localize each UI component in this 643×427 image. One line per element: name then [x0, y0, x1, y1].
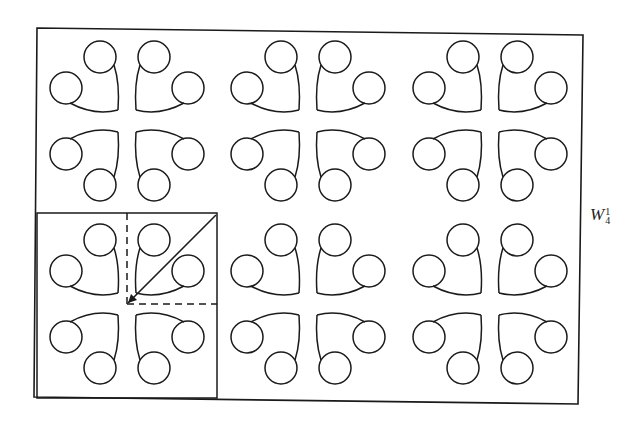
motif	[499, 41, 568, 112]
motif-circle	[319, 224, 351, 256]
motif-circle	[319, 41, 351, 73]
motif-circle	[84, 352, 116, 384]
motif-arc	[433, 313, 481, 322]
motif-circle	[265, 169, 297, 201]
motif-arc	[136, 315, 141, 360]
motif-circle	[353, 138, 385, 170]
motif-circle	[265, 224, 297, 256]
motif-circle	[447, 224, 479, 256]
lattice-cell	[413, 41, 567, 201]
motif-arc	[114, 132, 119, 177]
diagonal-line	[128, 215, 216, 303]
motif-circle	[50, 255, 82, 287]
motif	[413, 224, 482, 295]
motif	[50, 313, 119, 384]
motif-arc	[317, 313, 365, 322]
motif-arc	[499, 313, 547, 322]
motif-circle	[535, 255, 567, 287]
motif-circle	[447, 352, 479, 384]
motif-arc	[317, 132, 322, 177]
motif-circle	[231, 321, 263, 353]
motif-circle	[265, 352, 297, 384]
motif	[50, 130, 119, 201]
label-subscript: 4	[605, 216, 610, 225]
motif-arc	[499, 130, 547, 139]
motif-arc	[499, 132, 504, 177]
motif-circle	[172, 255, 204, 287]
motif-arc	[295, 248, 300, 293]
group-label: W14	[590, 205, 610, 225]
motif-arc	[295, 315, 300, 360]
motif-arc	[295, 65, 300, 110]
motif-circle	[535, 72, 567, 104]
label-scripts: 14	[605, 207, 610, 225]
motif	[50, 41, 119, 112]
motif-arc	[114, 65, 119, 110]
motif-arc	[136, 103, 184, 112]
motif	[413, 41, 482, 112]
motif-arc	[70, 313, 118, 322]
motif-circle	[535, 138, 567, 170]
motif-arc	[499, 248, 504, 293]
motif-arc	[251, 286, 299, 295]
motif-arc	[70, 286, 118, 295]
motif-circle	[447, 169, 479, 201]
motif	[499, 313, 568, 384]
label-base: W	[590, 205, 604, 224]
motif-circle	[353, 72, 385, 104]
motif	[136, 41, 205, 112]
motif-arc	[251, 313, 299, 322]
motif	[413, 130, 482, 201]
lattice-cell	[413, 224, 567, 384]
motif-circle	[535, 321, 567, 353]
motif-circle	[413, 255, 445, 287]
motif	[231, 41, 300, 112]
motif-arc	[477, 132, 482, 177]
motif-circle	[138, 352, 170, 384]
motif-circle	[172, 72, 204, 104]
motif-arc	[499, 315, 504, 360]
motif	[317, 130, 386, 201]
motif-arc	[136, 130, 184, 139]
motif-arc	[70, 103, 118, 112]
motif	[499, 224, 568, 295]
motif-arc	[251, 103, 299, 112]
motif-arc	[317, 103, 365, 112]
motif-circle	[172, 321, 204, 353]
fundamental-region	[37, 213, 217, 398]
motif-arc	[433, 103, 481, 112]
motif	[231, 313, 300, 384]
motif-circle	[138, 169, 170, 201]
motif-circle	[50, 321, 82, 353]
motif-arc	[499, 65, 504, 110]
motif-circle	[413, 138, 445, 170]
motif-arc	[317, 65, 322, 110]
motif-arc	[477, 315, 482, 360]
motif	[317, 313, 386, 384]
motif-circle	[353, 255, 385, 287]
motif-circle	[138, 41, 170, 73]
motif-circle	[265, 41, 297, 73]
motif-arc	[114, 248, 119, 293]
motif	[50, 224, 119, 295]
motif-arc	[477, 248, 482, 293]
motif-circle	[138, 224, 170, 256]
motif-circle	[353, 321, 385, 353]
motif-arc	[136, 248, 141, 293]
motif-circle	[501, 41, 533, 73]
motif	[317, 224, 386, 295]
motif-arc	[136, 65, 141, 110]
motif	[231, 130, 300, 201]
motif-arc	[433, 286, 481, 295]
motif-circle	[50, 72, 82, 104]
motif-circle	[447, 41, 479, 73]
motif	[413, 313, 482, 384]
lattice-cell	[231, 41, 385, 201]
motif-circle	[501, 169, 533, 201]
motif	[317, 41, 386, 112]
motif	[499, 130, 568, 201]
motif-circle	[319, 352, 351, 384]
motif-circle	[84, 224, 116, 256]
motif-circle	[501, 224, 533, 256]
motif-circle	[84, 169, 116, 201]
